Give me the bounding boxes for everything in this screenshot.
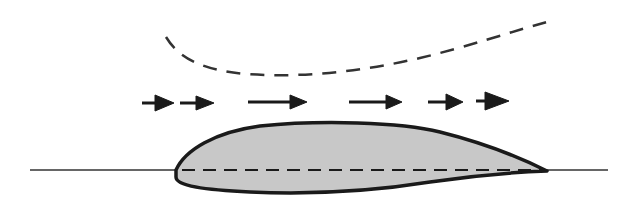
diagram-canvas xyxy=(0,0,637,199)
arrow-icon xyxy=(349,95,402,109)
arrow-icon xyxy=(428,94,463,110)
arrow-icon xyxy=(248,95,307,109)
arrow-icon xyxy=(180,96,214,110)
flow-arrows xyxy=(142,92,509,111)
arrow-icon xyxy=(476,92,509,110)
airfoil-shape xyxy=(176,123,547,193)
streamline-curve xyxy=(166,22,547,75)
airfoil-diagram: Airfoil in airflow with chord line and s… xyxy=(0,0,637,199)
arrow-icon xyxy=(142,95,174,111)
